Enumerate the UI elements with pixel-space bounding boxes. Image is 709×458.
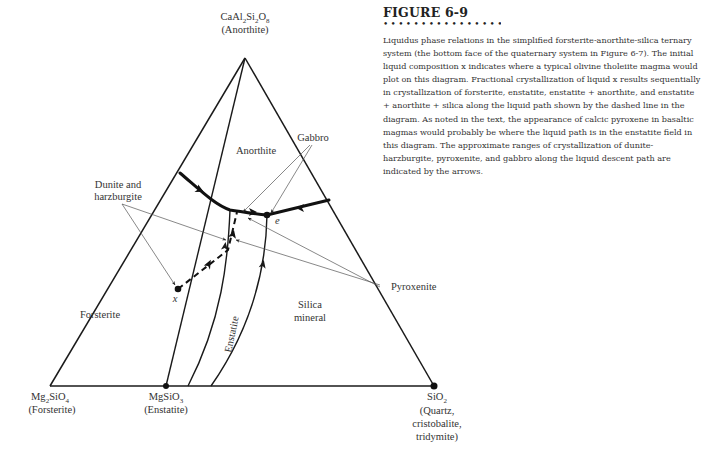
point-x [175,286,182,293]
liquid-path-arrows [204,229,238,271]
vertex-silica-name-1: (Quartz, [420,405,455,417]
field-silica-1: Silica [298,299,322,310]
figure-title-rule: •••••••••••••••••• [383,18,501,30]
triangle-outline [50,58,434,386]
vertex-forsterite-name: (Forsterite) [28,404,76,416]
liquid-path [178,212,237,289]
field-silica-2: mineral [294,312,326,323]
field-anorthite: Anorthite [236,145,277,156]
vertex-enstatite-name: (Enstatite) [144,404,188,416]
vertex-anorthite-formula: CaAl2Si2O8 [220,11,270,25]
field-forsterite: Forsterite [80,309,121,320]
label-e: e [275,215,280,226]
leader-lines [122,145,380,287]
annotation-dunite-2: harzburgite [94,191,142,202]
vertex-silica-name-2: cristobalite, [412,418,461,429]
figure-caption: FIGURE 6-9 •••••••••••••••••• Liquidus p… [383,5,703,178]
vertex-forsterite-formula: Mg2SiO4 [31,391,69,405]
vertex-silica-name-3: tridymite) [416,431,458,443]
vertex-silica-formula: SiO2 [427,391,447,405]
vertex-enstatite-formula: MgSiO3 [149,391,184,405]
point-e [264,212,271,219]
cotectic-lines [180,173,329,215]
annotation-pyroxenite: Pyroxenite [391,281,437,292]
figure-caption-text: Liquidus phase relations in the simplifi… [383,34,703,178]
point-silica [431,383,438,390]
point-enstatite [163,383,169,389]
annotation-dunite-1: Dunite and [95,179,142,190]
field-enstatite: Enstatite [222,315,240,354]
annotation-gabbro: Gabbro [297,132,329,143]
label-x: x [172,293,178,304]
vertex-anorthite-name: (Anorthite) [221,24,269,36]
